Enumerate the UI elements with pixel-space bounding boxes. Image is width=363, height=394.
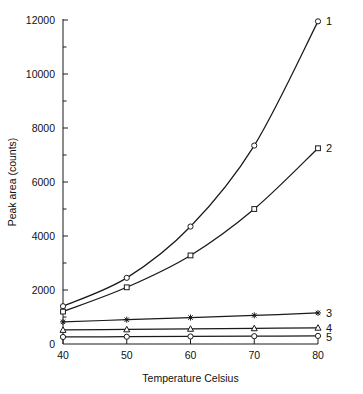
x-tick-label-40: 40 <box>57 349 69 361</box>
series-2-point-50 <box>124 285 129 290</box>
chart-canvas: 020004000600080001000012000 4050607080 1… <box>0 0 363 394</box>
series-label-3: 3 <box>326 307 332 319</box>
x-axis-tick-labels: 4050607080 <box>57 349 324 361</box>
line-chart: 020004000600080001000012000 4050607080 1… <box>0 0 363 394</box>
series-2-point-40 <box>61 309 66 314</box>
series-label-1: 1 <box>326 15 332 27</box>
series-1-point-70 <box>252 143 257 148</box>
series-2-point-70 <box>252 207 257 212</box>
series-5-point-40 <box>60 334 65 339</box>
x-tick-label-70: 70 <box>248 349 260 361</box>
series-end-labels: 12345 <box>326 15 332 343</box>
series-5-point-60 <box>188 334 193 339</box>
series-1 <box>60 19 320 309</box>
y-tick-label-2000: 2000 <box>32 284 56 296</box>
series-3-point-70 <box>251 312 257 318</box>
series-3-point-40 <box>60 319 66 325</box>
y-tick-label-8000: 8000 <box>32 122 56 134</box>
series-1-point-80 <box>315 19 320 24</box>
series-3-point-60 <box>188 315 194 321</box>
series-5-point-70 <box>252 334 257 339</box>
series-line-2 <box>63 148 318 311</box>
y-tick-label-12000: 12000 <box>26 14 55 26</box>
y-tick-label-6000: 6000 <box>32 176 56 188</box>
series-label-5: 5 <box>326 331 332 343</box>
series-2-point-80 <box>316 146 321 151</box>
y-axis-title: Peak area (counts) <box>6 138 18 227</box>
series-3-point-50 <box>124 317 130 323</box>
series-4 <box>60 325 321 333</box>
y-axis-tick-labels: 020004000600080001000012000 <box>26 14 55 350</box>
series-3-point-80 <box>315 310 321 316</box>
y-tick-label-4000: 4000 <box>32 230 56 242</box>
series-5 <box>60 333 320 339</box>
series-1-point-40 <box>60 304 65 309</box>
y-tick-label-0: 0 <box>49 338 55 350</box>
data-series-layer <box>60 19 321 340</box>
series-5-point-80 <box>315 333 320 338</box>
series-label-2: 2 <box>326 142 332 154</box>
x-tick-label-80: 80 <box>312 349 324 361</box>
x-axis-title: Temperature Celsius <box>142 372 238 384</box>
series-1-point-50 <box>124 275 129 280</box>
series-2-point-60 <box>188 253 193 258</box>
series-5-point-50 <box>124 334 129 339</box>
x-tick-label-50: 50 <box>121 349 133 361</box>
series-2 <box>61 146 321 314</box>
x-tick-label-60: 60 <box>185 349 197 361</box>
y-tick-label-10000: 10000 <box>26 68 55 80</box>
series-line-1 <box>63 21 318 306</box>
series-1-point-60 <box>188 224 193 229</box>
x-axis-ticks <box>63 339 318 344</box>
series-3 <box>60 310 321 325</box>
